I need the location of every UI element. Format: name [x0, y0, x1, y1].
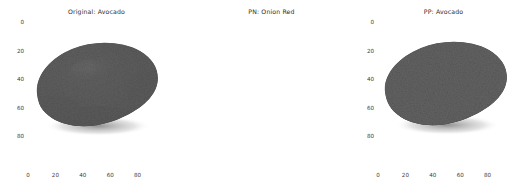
panel-adversarial: PN: Onion Red [175, 0, 350, 190]
ytick-label: 40 [4, 76, 24, 82]
matplotlib-figure: Original: Avocado [0, 0, 525, 190]
image-axes-original [28, 22, 165, 165]
panel-title-original: Original: Avocado [28, 8, 165, 15]
xtick-label: 60 [107, 172, 114, 178]
ytick-label: 20 [4, 48, 24, 54]
panel-original: Original: Avocado [0, 0, 175, 190]
xtick-label: 20 [52, 172, 59, 178]
xtick-label: 80 [134, 172, 141, 178]
ytick-label: 0 [4, 19, 24, 25]
panel-perturbation: PP: Avocado [350, 0, 525, 190]
panel-title-perturbation: PP: Avocado [372, 8, 515, 15]
ytick-label: 80 [4, 133, 24, 139]
avocado-image-original [28, 22, 165, 165]
xtick-label: 0 [26, 172, 30, 178]
panel-title-adversarial: PN: Onion Red [203, 8, 340, 15]
xtick-label: 40 [79, 172, 86, 178]
ytick-label: 60 [4, 105, 24, 111]
